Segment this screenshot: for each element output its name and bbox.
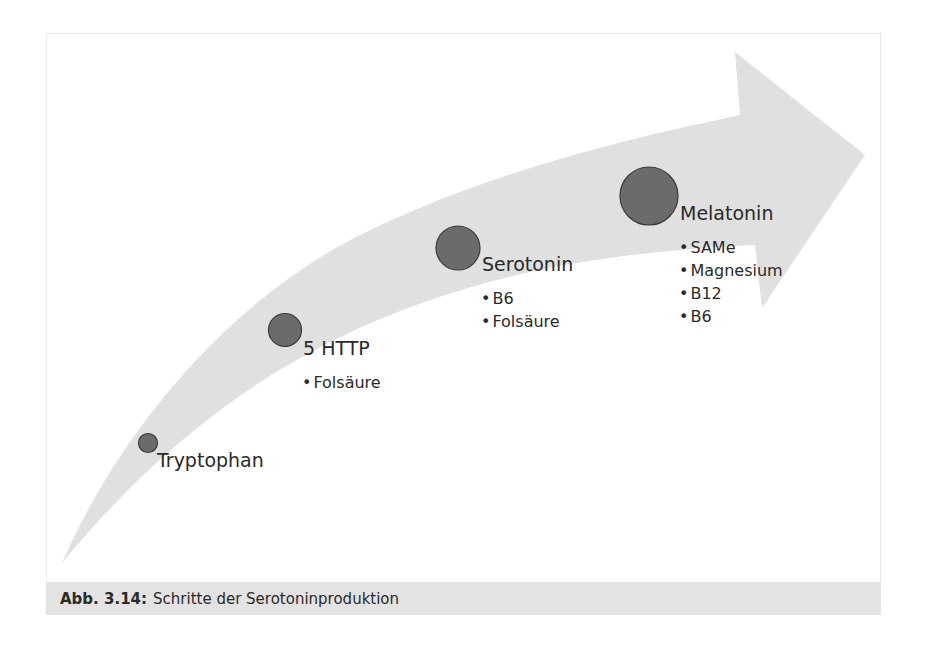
cofactor-item: B12 [679, 282, 783, 305]
cofactor-item: B6 [679, 305, 783, 328]
node-tryptophan-icon [139, 434, 158, 453]
cofactor-list-melatonin: SAMe Magnesium B12 B6 [679, 236, 783, 328]
cofactor-item: B6 [481, 287, 560, 310]
step-label-5htp: 5 HTTP [303, 339, 370, 358]
node-5htp-icon [269, 314, 302, 347]
figure-caption: Abb. 3.14: Schritte der Serotoninprodukt… [46, 582, 881, 615]
caption-text: Schritte der Serotoninproduktion [153, 590, 399, 608]
cofactor-item: Magnesium [679, 259, 783, 282]
cofactor-item: SAMe [679, 236, 783, 259]
cofactor-list-5htp: Folsäure [302, 371, 381, 394]
step-label-melatonin: Melatonin [680, 204, 773, 223]
cofactor-list-serotonin: B6 Folsäure [481, 287, 560, 333]
caption-label: Abb. 3.14: [60, 590, 147, 608]
node-serotonin-icon [436, 226, 480, 270]
cofactor-item: Folsäure [302, 371, 381, 394]
step-label-tryptophan: Tryptophan [157, 451, 264, 470]
cofactor-item: Folsäure [481, 310, 560, 333]
step-label-serotonin: Serotonin [482, 255, 573, 274]
pathway-diagram [0, 0, 926, 649]
node-melatonin-icon [620, 167, 678, 225]
